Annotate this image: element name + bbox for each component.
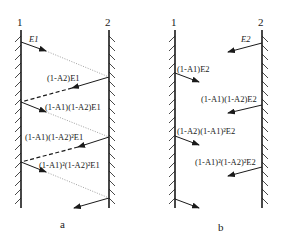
label-a-5: (1-A1)²(1-A2)²E1 [39, 161, 100, 170]
panel-a [15, 30, 115, 208]
wall-2-label-b: 2 [258, 17, 264, 28]
label-b-1: E2 [241, 35, 250, 44]
label-a-1: E1 [29, 35, 38, 44]
label-b-2: (1-A1)E2 [177, 65, 210, 74]
wall-1-label-a: 1 [17, 17, 23, 28]
wall-2-label-a: 2 [105, 17, 111, 28]
wall-1-label-b: 1 [171, 17, 177, 28]
label-a-2: (1-A2)E1 [47, 74, 80, 83]
hatch-right-a [109, 36, 115, 204]
caption-b: b [218, 222, 224, 233]
hatch-right-b [262, 36, 268, 204]
label-a-4: (1-A1)(1-A2)²E1 [25, 133, 83, 142]
label-b-4: (1-A2)(1-A1)²E2 [177, 127, 235, 136]
hatch-left-a [15, 36, 21, 204]
diagram-canvas [0, 0, 282, 241]
label-b-5: (1-A1)²(1-A2)²E2 [195, 158, 256, 167]
hatch-left-b [169, 36, 175, 204]
caption-a: a [60, 219, 65, 230]
panel-b [169, 30, 268, 208]
label-a-3: (1-A1)(1-A2)E1 [45, 103, 101, 112]
label-b-3: (1-A1)(1-A2)E2 [201, 95, 257, 104]
